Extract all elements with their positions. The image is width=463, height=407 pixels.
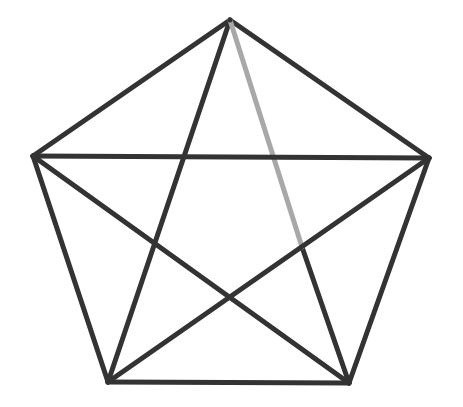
edge-top-bottom-right-highlight bbox=[230, 20, 302, 247]
edge-top-bottom-right-dark bbox=[302, 247, 349, 383]
edge-left-right bbox=[33, 156, 429, 158]
vertex-right bbox=[427, 156, 432, 161]
edge-bottom-right-bottom-left bbox=[108, 382, 349, 383]
edge-top-bottom-left bbox=[108, 20, 230, 382]
edge-right-bottom-right bbox=[349, 158, 429, 383]
edge-left-top bbox=[33, 20, 230, 156]
vertex-bottom-right bbox=[347, 381, 352, 386]
edge-left-bottom-right bbox=[33, 156, 349, 383]
diagram-canvas bbox=[0, 0, 463, 407]
vertex-bottom-left bbox=[106, 380, 111, 385]
k5-graph bbox=[0, 0, 463, 407]
edge-bottom-left-left bbox=[33, 156, 108, 382]
vertex-left bbox=[31, 154, 36, 159]
edge-top-right bbox=[230, 20, 429, 158]
vertex-top bbox=[228, 18, 233, 23]
edge-right-bottom-left bbox=[108, 158, 429, 382]
